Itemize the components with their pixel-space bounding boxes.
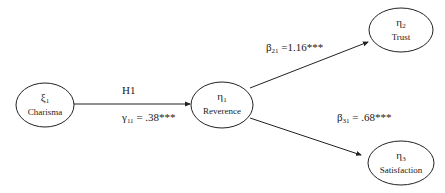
node-charisma-symbol: ξ1 xyxy=(15,92,75,107)
node-reverence-label: Reverence xyxy=(190,106,254,116)
coef-value: = .38*** xyxy=(134,111,176,123)
node-charisma: ξ1 Charisma xyxy=(15,92,75,117)
symbol-subscript: 1 xyxy=(223,96,227,104)
node-trust-label: Trust xyxy=(369,32,433,42)
symbol-subscript: 2 xyxy=(402,22,406,30)
node-trust: η2 Trust xyxy=(369,17,433,42)
edge-gamma11-coefficient: γ11 = .38*** xyxy=(122,111,176,125)
coef-subscript: 21 xyxy=(272,47,279,55)
edge-beta21-coefficient: β21 =1.16*** xyxy=(266,41,323,55)
symbol-subscript: 3 xyxy=(402,155,406,163)
edge-hypothesis-label: H1 xyxy=(122,84,135,96)
node-satisfaction: η3 Satisfaction xyxy=(368,150,434,175)
coef-subscript: 11 xyxy=(127,117,134,125)
coef-value: =1.16*** xyxy=(279,41,324,53)
node-reverence: η1 Reverence xyxy=(190,91,254,116)
node-trust-symbol: η2 xyxy=(369,17,433,32)
node-satisfaction-symbol: η3 xyxy=(368,150,434,165)
node-charisma-label: Charisma xyxy=(15,107,75,117)
coef-subscript: 31 xyxy=(343,117,350,125)
symbol-subscript: 1 xyxy=(46,97,50,105)
node-satisfaction-label: Satisfaction xyxy=(368,165,434,175)
node-reverence-symbol: η1 xyxy=(190,91,254,106)
coef-value: = .68*** xyxy=(350,111,392,123)
edge-beta31-coefficient: β31 = .68*** xyxy=(337,111,392,125)
